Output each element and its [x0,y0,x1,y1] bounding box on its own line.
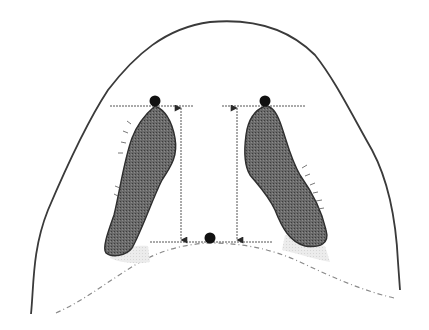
diagram-canvas [0,0,429,330]
diagram-svg [0,0,429,330]
right-lobe [245,106,327,246]
bottom-center-landmark-dot [205,233,216,244]
left-lobe [105,106,176,256]
right-top-landmark-dot [260,96,271,107]
left-top-landmark-dot [150,96,161,107]
outer-contour [31,21,400,314]
